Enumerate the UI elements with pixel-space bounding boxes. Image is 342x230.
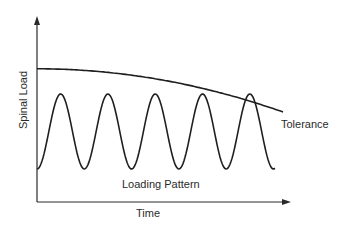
y-axis-arrow-icon bbox=[34, 16, 40, 25]
tolerance-label: Tolerance bbox=[281, 118, 329, 130]
tolerance-curve bbox=[37, 69, 283, 112]
x-axis-label: Time bbox=[136, 207, 160, 219]
loading-pattern-label: Loading Pattern bbox=[122, 178, 200, 190]
loading-pattern-curve bbox=[37, 94, 275, 169]
diagram: Spinal Load Time Tolerance Loading Patte… bbox=[0, 0, 342, 230]
y-axis-label: Spinal Load bbox=[17, 71, 29, 129]
x-axis-arrow-icon bbox=[282, 199, 291, 205]
